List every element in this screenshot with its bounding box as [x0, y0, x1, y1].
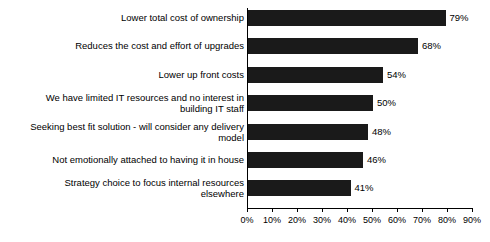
category-label: Lower up front costs	[4, 69, 244, 80]
category-label: Not emotionally attached to having it in…	[4, 154, 244, 165]
category-label: We have limited IT resources and no inte…	[4, 92, 244, 114]
x-axis-tick	[272, 208, 273, 212]
bar	[248, 124, 368, 140]
x-axis-tick	[422, 208, 423, 212]
bar-row: Not emotionally attached to having it in…	[0, 152, 490, 168]
x-axis-line	[247, 208, 473, 209]
bar	[248, 38, 418, 54]
bar-value-label: 41%	[355, 182, 374, 193]
category-label: Strategy choice to focus internal resour…	[4, 177, 244, 199]
bar-row: We have limited IT resources and no inte…	[0, 95, 490, 111]
bar-value-label: 79%	[450, 12, 469, 23]
x-axis-tick	[297, 208, 298, 212]
bar-row: Seeking best fit solution - will conside…	[0, 124, 490, 140]
bar-value-label: 68%	[422, 40, 441, 51]
bar-row: Strategy choice to focus internal resour…	[0, 180, 490, 196]
bar	[248, 95, 373, 111]
bar-chart: Lower total cost of ownership79%Reduces …	[0, 0, 490, 242]
x-axis-tick	[347, 208, 348, 212]
bar-value-label: 50%	[377, 97, 396, 108]
bar	[248, 67, 383, 83]
x-axis-tick	[447, 208, 448, 212]
bar-value-label: 46%	[367, 154, 386, 165]
x-axis-tick	[472, 208, 473, 212]
x-axis-tick	[247, 208, 248, 212]
bar-row: Lower total cost of ownership79%	[0, 10, 490, 26]
bar-value-label: 48%	[372, 126, 391, 137]
category-label: Reduces the cost and effort of upgrades	[4, 40, 244, 51]
bar-row: Lower up front costs54%	[0, 67, 490, 83]
bar	[248, 10, 446, 26]
x-axis-tick	[322, 208, 323, 212]
category-label: Seeking best fit solution - will conside…	[4, 121, 244, 143]
bar-row: Reduces the cost and effort of upgrades6…	[0, 38, 490, 54]
x-axis-tick	[372, 208, 373, 212]
bar	[248, 152, 363, 168]
x-axis-tick	[397, 208, 398, 212]
bar-value-label: 54%	[387, 69, 406, 80]
x-axis-tick-label: 90%	[457, 215, 487, 226]
category-label: Lower total cost of ownership	[4, 12, 244, 23]
bar	[248, 180, 351, 196]
